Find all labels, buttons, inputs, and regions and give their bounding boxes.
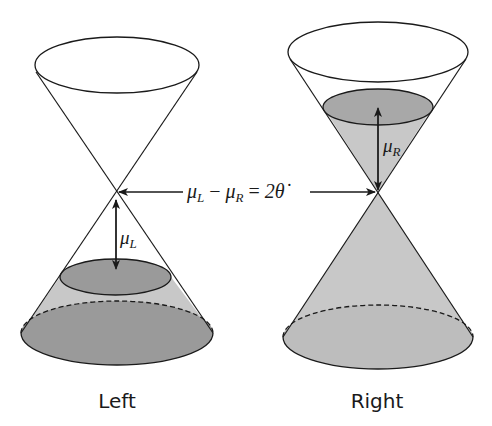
left-caption: Left bbox=[98, 389, 136, 413]
chemical-potential-equation: μL−μR=2θ̇ bbox=[119, 180, 375, 205]
diagram-canvas: μL μR μL−μR=2θ̇ Left Right bbox=[0, 0, 492, 426]
left-cone: μL bbox=[21, 37, 213, 365]
right-cone: μR bbox=[283, 22, 473, 369]
equation-text: μL−μR=2θ̇ bbox=[186, 180, 291, 205]
cone-diagram: μL μR μL−μR=2θ̇ Left Right bbox=[0, 0, 492, 426]
left-top-ellipse bbox=[35, 37, 199, 93]
right-top-ellipse bbox=[288, 22, 468, 82]
left-mu-label: μL bbox=[119, 227, 137, 251]
right-caption: Right bbox=[351, 389, 404, 413]
